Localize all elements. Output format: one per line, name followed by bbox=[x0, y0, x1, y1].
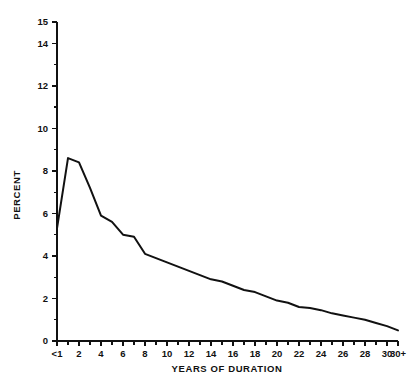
y-tick-label: 0 bbox=[43, 335, 48, 346]
x-tick-label: 2 bbox=[76, 348, 81, 359]
y-tick-label: 12 bbox=[37, 80, 48, 91]
x-tick-label: 10 bbox=[162, 348, 173, 359]
x-tick-label: 20 bbox=[272, 348, 283, 359]
y-tick-label: 15 bbox=[37, 16, 48, 27]
line-chart: 0246810121415 <1246810121416182022242628… bbox=[0, 0, 416, 386]
x-tick-label: 18 bbox=[250, 348, 261, 359]
x-tick-label: 16 bbox=[228, 348, 239, 359]
x-tick-label: 30+ bbox=[390, 348, 407, 359]
y-tick-label: 6 bbox=[43, 208, 48, 219]
x-tick-label: 4 bbox=[98, 348, 104, 359]
x-tick-label: 8 bbox=[142, 348, 147, 359]
x-tick-label: <1 bbox=[52, 348, 64, 359]
x-tick-label: 6 bbox=[120, 348, 125, 359]
x-axis-title: YEARS OF DURATION bbox=[172, 363, 283, 374]
y-tick-label: 14 bbox=[37, 38, 48, 49]
x-tick-label: 22 bbox=[294, 348, 305, 359]
y-tick-label: 2 bbox=[43, 293, 48, 304]
x-tick-label: 28 bbox=[360, 348, 371, 359]
x-tick-label: 14 bbox=[206, 348, 217, 359]
x-tick-label: 12 bbox=[184, 348, 195, 359]
x-tick-label: 26 bbox=[338, 348, 349, 359]
y-axis-title: PERCENT bbox=[11, 170, 22, 220]
y-tick-label: 4 bbox=[43, 250, 49, 261]
chart-figure: 0246810121415 <1246810121416182022242628… bbox=[0, 0, 416, 386]
y-tick-label: 8 bbox=[43, 165, 48, 176]
x-tick-label: 24 bbox=[316, 348, 327, 359]
y-tick-label: 10 bbox=[37, 123, 48, 134]
